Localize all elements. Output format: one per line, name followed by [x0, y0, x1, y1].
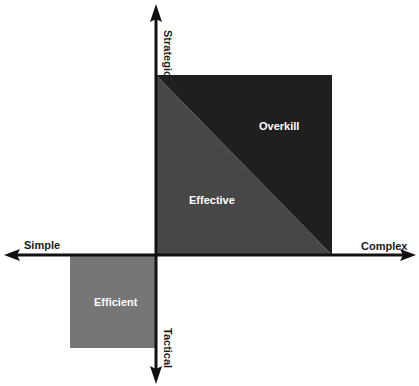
region-label-efficient: Efficient: [94, 296, 137, 308]
quadrant-diagram: Strategic Tactical Simple Complex Overki…: [0, 0, 419, 386]
region-label-effective: Effective: [189, 194, 235, 206]
axis-label-tactical: Tactical: [162, 328, 174, 368]
region-label-overkill: Overkill: [259, 120, 299, 132]
axis-label-simple: Simple: [24, 239, 60, 251]
axis-label-complex: Complex: [361, 240, 407, 252]
axis-label-strategic: Strategic: [162, 30, 174, 77]
